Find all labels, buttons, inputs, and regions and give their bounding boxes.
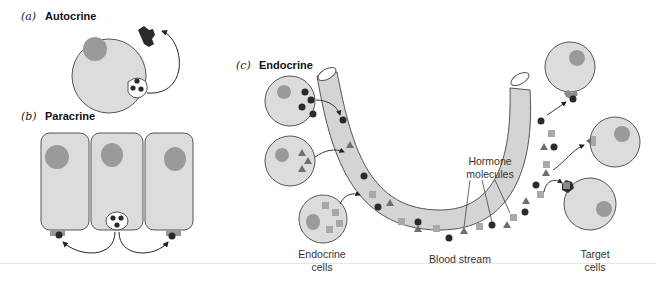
- target-cell-middle: [553, 117, 640, 170]
- paracrine-cells: [41, 133, 193, 253]
- endocrine-cell-squares: [299, 194, 360, 243]
- receptor-icon: [138, 26, 155, 47]
- endocrine-label-line2: cells: [290, 261, 354, 274]
- hormone-label-line2: molecules: [455, 168, 525, 181]
- blood-stream-text: Blood stream: [415, 253, 505, 266]
- autocrine-cell: [72, 26, 179, 113]
- endocrine-cell-triangles: [265, 136, 344, 186]
- target-label-line1: Target: [567, 248, 623, 261]
- blood-stream-label: Blood stream: [415, 253, 505, 266]
- target-cells-label: Target cells: [567, 248, 623, 274]
- hormone-molecules-label: Hormone molecules: [455, 155, 525, 181]
- endocrine-cells-label: Endocrine cells: [290, 248, 354, 274]
- hormone-label-line1: Hormone: [455, 155, 525, 168]
- target-label-line2: cells: [567, 261, 623, 274]
- target-cell-top: [545, 42, 595, 115]
- nucleus: [83, 37, 107, 61]
- endocrine-label-line1: Endocrine: [290, 248, 354, 261]
- signaling-diagram: [0, 0, 656, 284]
- target-cell-bottom: [544, 178, 616, 230]
